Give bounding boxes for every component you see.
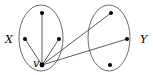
vertex-label-v: v — [33, 57, 40, 70]
node-v — [40, 63, 45, 68]
edges — [25, 13, 127, 65]
node-x3 — [57, 37, 61, 41]
set-label-y: Y — [140, 33, 149, 46]
edge — [42, 39, 127, 65]
set-label-x: X — [4, 33, 14, 46]
edge — [42, 13, 111, 65]
node-y2 — [125, 37, 129, 41]
node-y3 — [108, 63, 112, 67]
node-x1 — [40, 11, 44, 15]
node-x2 — [23, 37, 27, 41]
bipartite-diagram: X Y v — [0, 0, 153, 75]
node-y1 — [109, 11, 113, 15]
